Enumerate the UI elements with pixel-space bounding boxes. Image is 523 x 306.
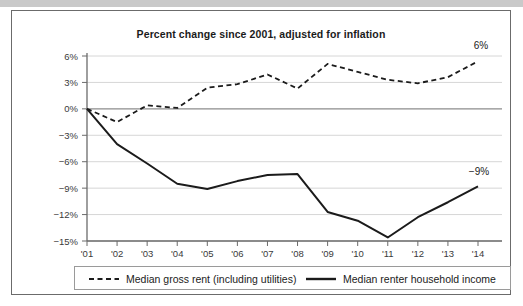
- series-line-income: [87, 109, 478, 238]
- x-axis-ticks: '01'02'03'04'05'06'07'08'09'10'11'12'13'…: [81, 241, 484, 259]
- y-axis-tick-label: −9%: [59, 183, 79, 194]
- x-axis-tick-label: '14: [472, 248, 484, 259]
- y-axis-tick-label: −6%: [59, 156, 79, 167]
- x-axis-tick-label: '01: [81, 248, 93, 259]
- y-axis-tick-label: 3%: [64, 77, 78, 88]
- series-line-rent: [87, 61, 478, 122]
- x-axis-tick-label: '11: [382, 248, 394, 259]
- x-axis-tick-label: '06: [231, 248, 243, 259]
- legend-item-income[interactable]: Median renter household income: [306, 267, 496, 291]
- y-axis-tick-label: −15%: [53, 236, 78, 247]
- annotation-income-endpoint: −9%: [469, 166, 489, 177]
- chart-legend: Median gross rent (including utilities) …: [74, 266, 511, 290]
- chart-figure-frame: Percent change since 2001, adjusted for …: [11, 10, 511, 295]
- legend-swatch-solid-icon: [306, 274, 336, 284]
- top-gray-band: [0, 0, 523, 7]
- chart-plot-area: Percent change since 2001, adjusted for …: [12, 11, 510, 294]
- y-axis-tick-label: 0%: [64, 103, 78, 114]
- x-axis-tick-label: '12: [412, 248, 424, 259]
- x-axis-tick-label: '04: [171, 248, 183, 259]
- x-axis-tick-label: '03: [141, 248, 153, 259]
- x-axis-tick-label: '13: [442, 248, 454, 259]
- y-axis-tick-label: 6%: [64, 51, 78, 62]
- x-axis-tick-label: '10: [351, 248, 363, 259]
- x-axis-tick-label: '08: [291, 248, 303, 259]
- y-axis-tick-label: −12%: [53, 209, 78, 220]
- annotation-rent-endpoint: 6%: [474, 40, 489, 51]
- x-axis-tick-label: '09: [321, 248, 333, 259]
- y-axis-tick-label: −3%: [59, 130, 79, 141]
- x-axis-tick-label: '02: [111, 248, 123, 259]
- legend-item-rent[interactable]: Median gross rent (including utilities): [89, 267, 296, 291]
- legend-label-rent: Median gross rent (including utilities): [126, 273, 296, 285]
- line-chart-svg: 6%3%0%−3%−6%−9%−12%−15%'01'02'03'04'05'0…: [12, 11, 510, 294]
- legend-swatch-dashed-icon: [89, 274, 119, 284]
- legend-label-income: Median renter household income: [343, 273, 496, 285]
- x-axis-tick-label: '07: [261, 248, 273, 259]
- x-axis-tick-label: '05: [201, 248, 213, 259]
